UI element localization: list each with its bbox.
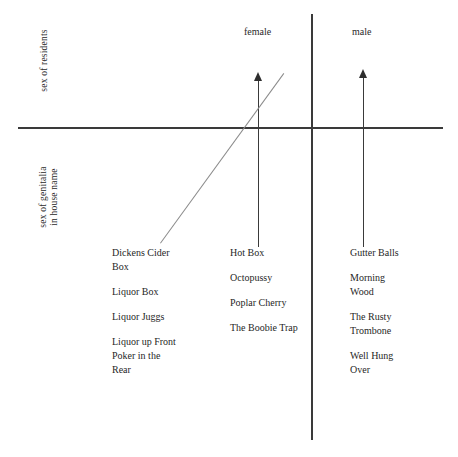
list-item: Dickens Cider Box	[112, 246, 208, 274]
item-line: Gutter Balls	[350, 246, 442, 260]
item-column-unclassified: Dickens Cider Box Liquor Box Liquor Jugg…	[112, 246, 208, 388]
item-line: Hot Box	[230, 246, 314, 260]
list-item: Hot Box	[230, 246, 314, 260]
item-line: Liquor Box	[112, 285, 208, 299]
item-line: Poplar Cherry	[230, 296, 314, 310]
axis-title-sex-of-residents: sex of residents	[39, 16, 50, 106]
item-line: Trombone	[350, 324, 442, 338]
item-line: Octopussy	[230, 271, 314, 285]
item-line: Well Hung	[350, 349, 442, 363]
column-header-female: female	[244, 26, 271, 37]
list-item: Well Hung Over	[350, 349, 442, 377]
item-line: Dickens Cider	[112, 246, 208, 260]
axis-title-upper-text: sex of residents	[39, 29, 49, 91]
item-line: Liquor up Front	[112, 335, 208, 349]
item-line: Liquor Juggs	[112, 310, 208, 324]
male-column-rule	[363, 77, 364, 247]
list-item: The Boobie Trap	[230, 321, 314, 335]
list-item: Liquor up Front Poker in the Rear	[112, 335, 208, 377]
item-line: Box	[112, 260, 208, 274]
item-line: Morning	[350, 271, 442, 285]
item-line: Poker in the	[112, 349, 208, 363]
column-header-male: male	[352, 26, 371, 37]
list-item: Octopussy	[230, 271, 314, 285]
list-item: Poplar Cherry	[230, 296, 314, 310]
item-line: The Boobie Trap	[230, 321, 314, 335]
item-column-female: Hot Box Octopussy Poplar Cherry The Boob…	[230, 246, 314, 346]
item-column-male: Gutter Balls Morning Wood The Rusty Trom…	[350, 246, 442, 388]
diagonal-trend-line	[160, 74, 284, 244]
quadrant-chart: sex of residents sex of genitalia in hou…	[0, 0, 458, 457]
axis-title-lower-line2: in house name	[49, 151, 60, 243]
item-line: Wood	[350, 285, 442, 299]
axis-title-lower-line1: sex of genitalia	[38, 166, 48, 227]
item-line: The Rusty	[350, 310, 442, 324]
list-item: Gutter Balls	[350, 246, 442, 260]
item-line: Rear	[112, 363, 208, 377]
female-arrow-icon	[254, 72, 262, 81]
list-item: Liquor Box	[112, 285, 208, 299]
male-arrow-icon	[359, 69, 367, 78]
list-item: The Rusty Trombone	[350, 310, 442, 338]
item-line: Over	[350, 363, 442, 377]
list-item: Liquor Juggs	[112, 310, 208, 324]
vertical-axis	[311, 14, 313, 440]
horizontal-axis	[18, 127, 443, 129]
axis-title-sex-of-genitalia: sex of genitalia in house name	[38, 151, 60, 243]
list-item: Morning Wood	[350, 271, 442, 299]
